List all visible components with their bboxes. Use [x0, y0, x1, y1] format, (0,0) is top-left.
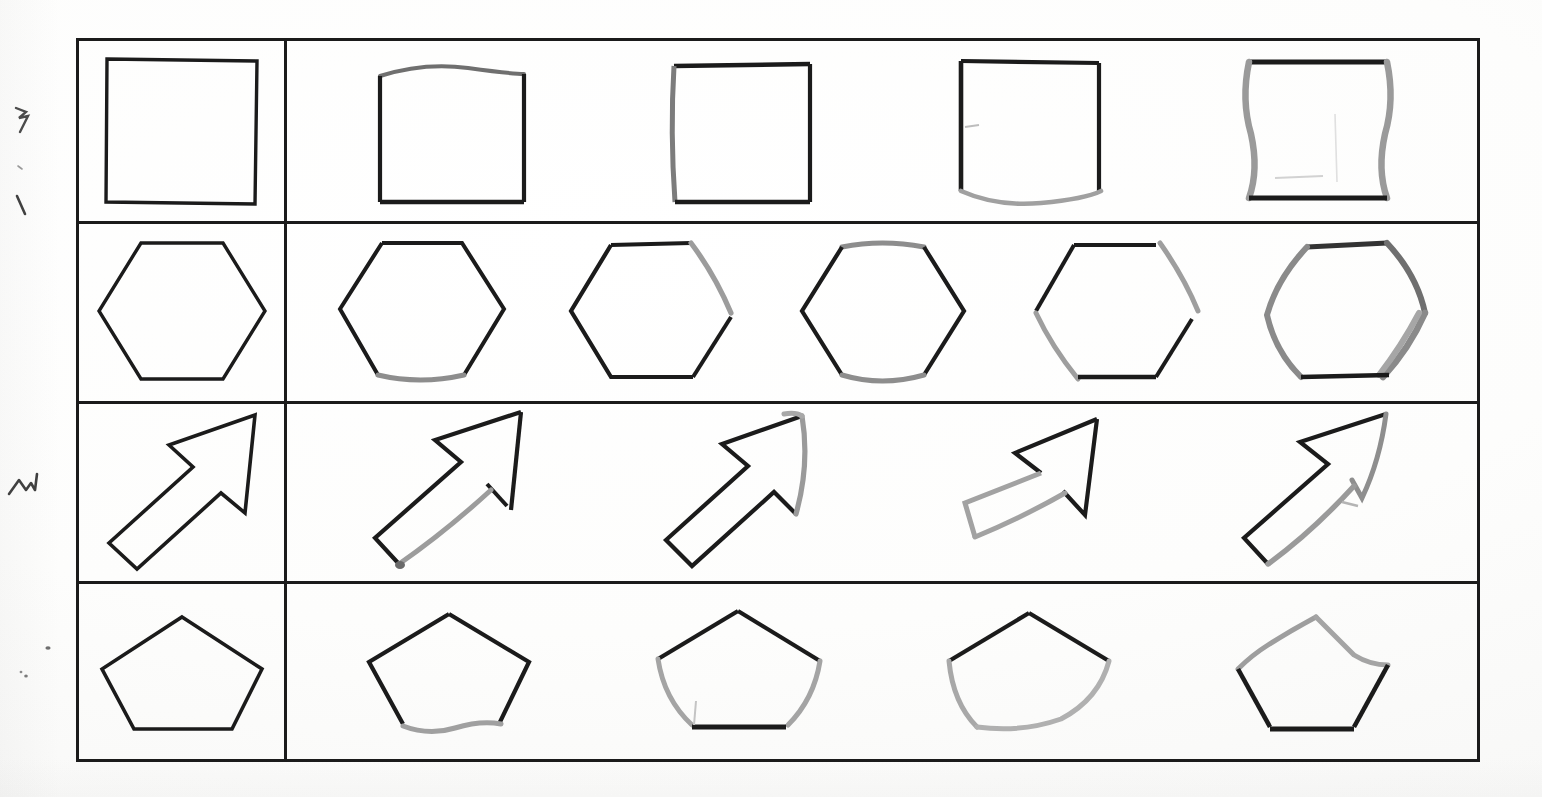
- hexagon-reference-cell: [79, 221, 284, 401]
- arrow-attempt-2: [656, 406, 826, 576]
- stray-mark-zigzag-upper: [8, 104, 38, 138]
- arrow-attempt-4-slot: [1234, 406, 1404, 576]
- pentagon-attempt-1: [363, 608, 539, 738]
- hexagon-attempt-1-slot: [334, 235, 510, 387]
- stray-mark-dot-lower-b: [16, 666, 30, 680]
- pentagon-attempt-1-slot: [363, 608, 539, 738]
- hexagon-attempt-3-slot: [796, 235, 972, 387]
- arrow-attempt-3: [945, 411, 1115, 571]
- arrow-attempt-3-slot: [945, 411, 1115, 571]
- square-reference: [101, 54, 263, 209]
- arrow-attempt-1: [365, 406, 537, 576]
- worksheet-row-arrow: [79, 401, 1477, 581]
- square-reference-cell: [79, 41, 284, 221]
- pentagon-reference-cell: [79, 581, 284, 765]
- worksheet-row-pentagon: [79, 581, 1477, 765]
- stray-mark-zigzag-lower: [6, 470, 50, 504]
- stray-mark-tick-upper: [12, 192, 32, 220]
- worksheet-page: [0, 0, 1542, 797]
- hexagon-attempt-5-slot: [1259, 235, 1435, 387]
- arrow-attempt-4: [1234, 406, 1404, 576]
- arrow-reference: [97, 409, 267, 574]
- hexagon-attempts-cell: [284, 221, 1477, 401]
- arrow-attempts-cell: [284, 401, 1477, 581]
- hexagon-reference: [93, 235, 271, 387]
- square-attempts-cell: [284, 41, 1477, 221]
- pentagon-attempt-2: [652, 607, 828, 739]
- pentagon-attempt-3: [941, 607, 1117, 739]
- hexagon-attempt-2: [565, 235, 741, 387]
- pentagon-attempt-4: [1230, 607, 1406, 739]
- pentagon-attempts-cell: [284, 581, 1477, 765]
- stray-mark-dot-upper: [14, 160, 28, 174]
- arrow-attempt-1-slot: [365, 406, 537, 576]
- worksheet-row-square: [79, 41, 1477, 221]
- hexagon-attempt-4-slot: [1028, 235, 1204, 387]
- pentagon-attempt-2-slot: [652, 607, 828, 739]
- worksheet-grid: [76, 38, 1480, 762]
- pentagon-attempt-3-slot: [941, 607, 1117, 739]
- hexagon-attempt-2-slot: [565, 235, 741, 387]
- arrow-attempt-2-slot: [656, 406, 826, 576]
- hexagon-attempt-1: [334, 235, 510, 387]
- square-attempt-2-slot: [664, 54, 816, 209]
- hexagon-attempt-4: [1028, 235, 1204, 387]
- pentagon-reference: [96, 611, 268, 736]
- arrow-reference-cell: [79, 401, 284, 581]
- hexagon-attempt-5: [1259, 235, 1435, 387]
- square-attempt-3-slot: [949, 51, 1107, 211]
- square-attempt-4: [1239, 52, 1397, 210]
- square-attempt-3: [949, 51, 1107, 211]
- pentagon-attempt-4-slot: [1230, 607, 1406, 739]
- square-attempt-2: [664, 54, 816, 209]
- square-attempt-1: [372, 54, 532, 209]
- stray-mark-dot-lower-a: [42, 642, 54, 654]
- square-attempt-4-slot: [1239, 52, 1397, 210]
- square-attempt-1-slot: [372, 54, 532, 209]
- hexagon-attempt-3: [796, 235, 972, 387]
- worksheet-row-hexagon: [79, 221, 1477, 401]
